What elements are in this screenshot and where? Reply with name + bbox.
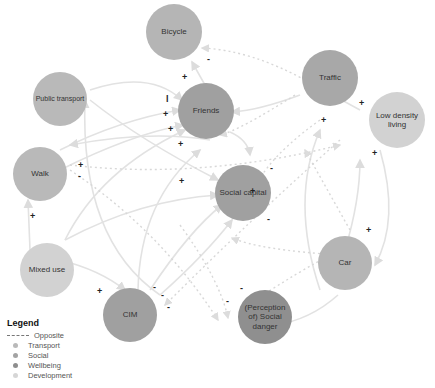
node-label: CIM (123, 310, 138, 319)
edge-sign: + (359, 98, 364, 108)
legend-item-social: Social (7, 350, 72, 360)
edge-sign: + (163, 109, 168, 119)
node-mixed-use[interactable]: Mixed use (20, 243, 74, 297)
edge-sign: + (366, 225, 371, 235)
edge-sign: + (97, 286, 102, 296)
edge-sign: - (240, 283, 243, 293)
node-public-transport[interactable]: Public transport (33, 72, 87, 126)
edge-sign: + (250, 186, 255, 196)
legend-label: Opposite (34, 331, 64, 340)
dot-icon (13, 343, 18, 348)
edge-sign: - (267, 214, 270, 224)
node-car[interactable]: Car (318, 236, 372, 290)
edge-sign: + (30, 211, 35, 221)
legend-item-transport: Transport (7, 340, 72, 350)
node-low-density-living[interactable]: Low density living (369, 92, 425, 148)
edge-sign: + (179, 176, 184, 186)
edge-sign: + (321, 115, 326, 125)
node-label: Low density living (375, 111, 419, 129)
edge-sign: - (78, 171, 81, 181)
node-label: Social capital (219, 188, 266, 197)
edge-sign: - (153, 282, 156, 292)
legend-label: Social (28, 351, 48, 360)
node-walk[interactable]: Walk (13, 147, 67, 201)
edge-sign: + (168, 124, 173, 134)
node-label: Traffic (319, 73, 341, 82)
node-cim[interactable]: CIM (103, 288, 157, 342)
node-label: Bicycle (161, 27, 186, 36)
legend-label: Transport (28, 341, 60, 350)
dot-icon (13, 363, 18, 368)
node-label: Walk (31, 169, 48, 178)
legend-item-opposite: Opposite (7, 330, 72, 340)
legend-item-wellbeing: Wellbeing (7, 360, 72, 370)
dot-icon (13, 373, 18, 378)
node-friends[interactable]: Friends (178, 83, 234, 139)
edge-sign: + (78, 160, 83, 170)
legend: Legend Opposite Transport Social Wellbei… (7, 318, 72, 380)
edge-sign: - (270, 163, 273, 173)
node-bicycle[interactable]: Bicycle (146, 4, 202, 60)
edge-sign: + (178, 139, 183, 149)
edge-sign: l (166, 94, 169, 104)
node-social-danger[interactable]: (Perception of) Social danger (238, 290, 292, 344)
node-traffic[interactable]: Traffic (302, 50, 358, 106)
edge-sign: - (226, 296, 229, 306)
node-label: Car (339, 258, 352, 267)
dashed-line-icon (7, 335, 29, 336)
node-label: Mixed use (29, 265, 65, 274)
edge-sign: + (182, 72, 187, 82)
edge-sign: + (372, 148, 377, 158)
dot-icon (13, 353, 18, 358)
node-label: Friends (193, 106, 220, 115)
node-social-capital[interactable]: Social capital (215, 165, 271, 221)
legend-title: Legend (7, 318, 72, 328)
edge-sign: - (207, 54, 210, 64)
edge-sign: - (167, 302, 170, 312)
node-label: Public transport (36, 95, 85, 103)
node-label: (Perception of) Social danger (243, 303, 287, 331)
legend-item-development: Development (7, 370, 72, 380)
edge-sign: - (161, 290, 164, 300)
legend-label: Development (28, 371, 72, 380)
legend-label: Wellbeing (28, 361, 61, 370)
